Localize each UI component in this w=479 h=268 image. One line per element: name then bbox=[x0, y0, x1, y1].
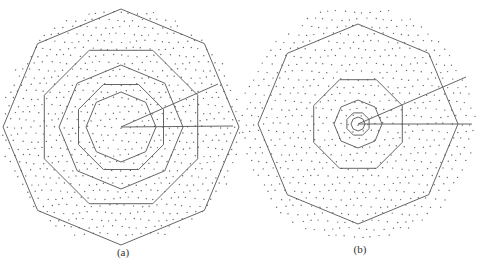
panel-a bbox=[2, 9, 240, 245]
ray-line bbox=[121, 84, 218, 127]
figure: (a) (b) bbox=[0, 0, 479, 268]
ray-line bbox=[121, 126, 233, 127]
panel-b bbox=[242, 10, 476, 238]
panel-b-label: (b) bbox=[354, 243, 367, 255]
octagon-tiling-diagram bbox=[0, 0, 479, 268]
panel-a-label: (a) bbox=[117, 246, 129, 258]
